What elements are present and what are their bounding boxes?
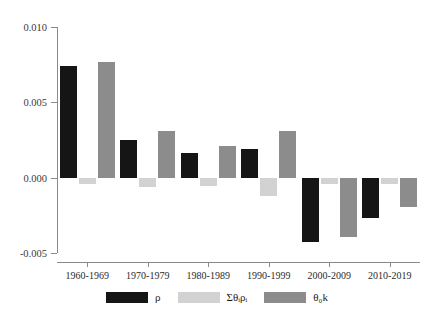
x-tick-label: 1980-1989 xyxy=(187,270,230,281)
legend-swatch xyxy=(106,292,148,303)
bar xyxy=(302,178,319,242)
y-tick-label: 0.010 xyxy=(0,22,47,33)
y-tick-label: 0.000 xyxy=(0,172,47,183)
bar xyxy=(321,178,338,185)
bar xyxy=(400,178,417,208)
bar-chart: 0.0100.0050.000-0.005 1960-19691970-1979… xyxy=(0,0,434,322)
bar xyxy=(219,146,236,177)
bar xyxy=(181,153,198,178)
bar xyxy=(120,140,137,178)
bar xyxy=(241,149,258,178)
bar xyxy=(60,66,77,178)
bar xyxy=(98,62,115,178)
chart-legend: ρΣθᵢρᵢθ₀k xyxy=(0,292,434,303)
legend-label: θ₀k xyxy=(313,292,328,303)
x-tick-label: 2010-2019 xyxy=(368,270,411,281)
bar xyxy=(340,178,357,238)
x-tick-label: 1960-1969 xyxy=(66,270,109,281)
legend-swatch xyxy=(178,292,220,303)
legend-item[interactable]: ρ xyxy=(106,292,161,303)
legend-swatch xyxy=(264,292,306,303)
x-tick-label: 2000-2009 xyxy=(308,270,351,281)
x-tick-label: 1990-1999 xyxy=(247,270,290,281)
bar xyxy=(279,131,296,178)
y-tick-label: -0.005 xyxy=(0,248,47,259)
y-tick-label: 0.005 xyxy=(0,97,47,108)
bar xyxy=(158,131,175,178)
bar xyxy=(362,178,379,219)
bar xyxy=(260,178,277,196)
legend-label: ρ xyxy=(155,292,161,303)
bar xyxy=(381,178,398,185)
x-tick-label: 1970-1979 xyxy=(126,270,169,281)
legend-label: Σθᵢρᵢ xyxy=(227,292,248,303)
bar xyxy=(200,178,217,186)
legend-item[interactable]: Σθᵢρᵢ xyxy=(178,292,248,303)
bar xyxy=(79,178,96,184)
legend-item[interactable]: θ₀k xyxy=(264,292,328,303)
bar xyxy=(139,178,156,187)
